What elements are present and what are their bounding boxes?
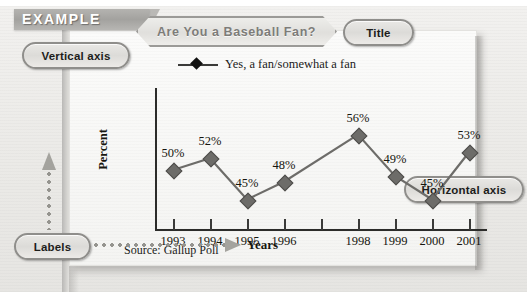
x-axis-tick <box>247 219 249 230</box>
x-axis-tick <box>358 219 360 230</box>
labels-pointer-dots <box>92 243 225 247</box>
x-axis-tick-label: 1999 <box>374 234 416 249</box>
example-banner: EXAMPLE <box>14 9 149 30</box>
x-axis-tick <box>321 219 323 230</box>
vertical-axis-pointer-arrow-icon <box>42 152 56 170</box>
series-line <box>69 30 475 264</box>
x-axis-tick <box>469 219 471 230</box>
x-axis-tick <box>210 219 212 230</box>
data-point-label: 48% <box>264 158 304 173</box>
data-point-label: 49% <box>375 152 415 167</box>
data-point-label: 45% <box>412 176 452 191</box>
callout-labels-label: Labels <box>34 241 72 253</box>
x-axis-tick <box>173 219 175 230</box>
screenshot-root: EXAMPLE Are You a Baseball Fan? Vertical… <box>0 0 527 298</box>
example-banner-label: EXAMPLE <box>22 11 101 27</box>
x-axis-tick <box>284 219 286 230</box>
data-point-label: 52% <box>190 134 230 149</box>
labels-pointer-arrow-icon <box>225 238 241 252</box>
x-axis-tick-label: 2000 <box>411 234 453 249</box>
x-axis-tick-label: 2001 <box>448 234 490 249</box>
x-axis-tick <box>395 219 397 230</box>
data-point-label: 53% <box>449 128 489 143</box>
x-axis-tick-label: 1998 <box>337 234 379 249</box>
data-point-label: 50% <box>153 146 193 161</box>
data-point-label: 45% <box>227 176 267 191</box>
x-axis-title: Years <box>247 237 278 253</box>
plot-area: Percent 19931994199519961998199920002001… <box>69 30 475 264</box>
x-axis-tick <box>432 219 434 230</box>
vertical-axis-pointer-dots <box>47 170 51 230</box>
data-point-label: 56% <box>338 111 378 126</box>
